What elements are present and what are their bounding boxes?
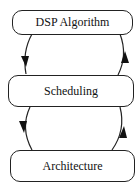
edge-scheduling-to-architecture (25, 107, 32, 150)
edge-scheduling-to-dsp (118, 34, 124, 75)
edge-dsp-to-scheduling (25, 34, 32, 74)
node-label: DSP Algorithm (36, 15, 110, 30)
node-label: Architecture (43, 159, 103, 174)
edge-architecture-to-scheduling (112, 107, 122, 150)
node-dsp-algorithm: DSP Algorithm (12, 10, 133, 35)
node-scheduling: Scheduling (8, 75, 134, 107)
arrowhead-up-icon (121, 51, 129, 63)
node-architecture: Architecture (10, 150, 135, 182)
node-label: Scheduling (44, 84, 98, 99)
